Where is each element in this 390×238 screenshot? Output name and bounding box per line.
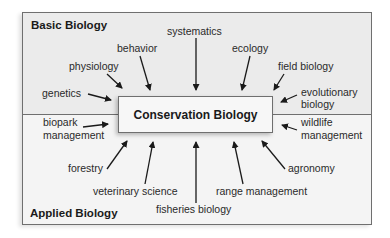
label-wildlife-management-line1: wildlife [301, 116, 333, 128]
conservation-biology-box: Conservation Biology [118, 96, 273, 133]
label-wildlife-management-line2: management [301, 129, 362, 141]
applied-biology-heading: Applied Biology [30, 207, 118, 219]
label-forestry: forestry [68, 162, 103, 174]
label-range-management: range management [216, 185, 307, 197]
label-ecology: ecology [232, 42, 268, 54]
label-field-biology: field biology [278, 60, 333, 72]
label-biopark-management-line1: biopark [43, 116, 77, 128]
label-behavior: behavior [117, 42, 157, 54]
label-agronomy: agronomy [288, 162, 335, 174]
basic-biology-heading: Basic Biology [31, 19, 107, 31]
label-genetics: genetics [42, 87, 81, 99]
label-biopark-management-line2: management [43, 129, 104, 141]
label-veterinary-science: veterinary science [93, 185, 178, 197]
label-evolutionary-biology-line2: biology [301, 98, 334, 110]
label-systematics: systematics [167, 25, 222, 37]
label-physiology: physiology [69, 60, 119, 72]
center-label: Conservation Biology [133, 108, 257, 122]
label-fisheries-biology: fisheries biology [156, 203, 231, 215]
label-evolutionary-biology-line1: evolutionary [301, 86, 358, 98]
